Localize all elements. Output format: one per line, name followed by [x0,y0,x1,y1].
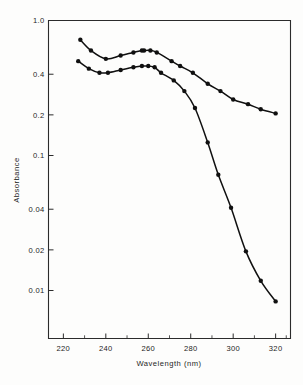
data-point-marker [148,48,152,52]
data-point-marker [206,82,210,86]
data-point-marker [159,71,163,75]
data-point-marker [273,111,277,115]
y-axis-ticks [49,21,54,291]
data-point-marker [118,68,122,72]
y-tick-label: 0.01 [29,286,45,295]
data-point-marker [191,71,195,75]
data-point-marker [231,97,235,101]
x-axis-title: Wavelength (nm) [136,359,201,368]
data-point-marker [155,50,159,54]
y-tick-label: 0.04 [29,205,45,214]
y-tick-label: 0.4 [33,70,44,79]
data-point-marker [178,64,182,68]
data-point-marker [142,48,146,52]
data-point-marker [76,59,80,63]
curve-line [80,40,275,114]
data-point-marker [169,59,173,63]
y-tick-label: 0.1 [33,151,44,160]
axis-frame-path [49,21,291,339]
data-point-marker [244,249,248,253]
curve-line [78,61,275,301]
data-point-marker [259,107,263,111]
y-tick-label: 0.02 [29,246,45,255]
x-tick-label: 240 [99,344,113,353]
x-tick-label: 280 [184,344,198,353]
data-point-marker [89,48,93,52]
data-point-marker [104,57,108,61]
data-point-marker [106,71,110,75]
data-point-marker [246,102,250,106]
figure-container: 1.00.40.20.10.040.020.01 220240260280300… [0,0,303,385]
data-point-marker [118,53,122,57]
data-point-marker [218,89,222,93]
y-tick-label: 0.2 [33,111,44,120]
data-point-marker [140,64,144,68]
data-point-marker [87,66,91,70]
data-point-marker [229,206,233,210]
data-point-marker [206,140,210,144]
data-point-marker [182,89,186,93]
x-axis-tick-labels: 220240260280300320 [57,344,283,353]
data-point-marker [193,106,197,110]
data-point-marker [78,38,82,42]
x-tick-label: 220 [57,344,71,353]
data-point-marker [172,78,176,82]
y-tick-label: 1.0 [33,16,44,25]
data-point-marker [97,71,101,75]
data-point-marker [131,65,135,69]
series-lower-curve [76,59,278,304]
y-axis-tick-labels: 1.00.40.20.10.040.020.01 [29,16,45,295]
data-series-layer [76,38,278,304]
x-axis-ticks [63,334,286,339]
data-point-marker [216,173,220,177]
data-point-marker [152,65,156,69]
y-axis-title: Absorbance [12,157,21,203]
data-point-marker [146,64,150,68]
x-tick-label: 300 [226,344,240,353]
x-tick-label: 260 [141,344,155,353]
data-point-marker [273,299,277,303]
plot-frame [49,21,291,339]
data-point-marker [131,50,135,54]
series-upper-curve [78,38,278,116]
x-tick-label: 320 [269,344,283,353]
data-point-marker [259,279,263,283]
absorbance-spectrum-chart: 1.00.40.20.10.040.020.01 220240260280300… [0,0,303,385]
